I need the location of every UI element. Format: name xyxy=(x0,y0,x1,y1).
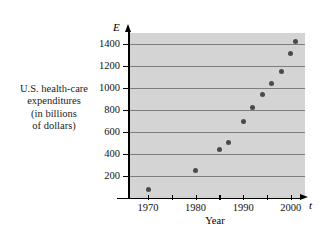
x-axis-tick-label: 2000 xyxy=(271,203,311,214)
y-axis-tick xyxy=(123,66,129,67)
plot-area xyxy=(129,33,305,198)
y-axis-line xyxy=(128,30,130,199)
x-axis-tick xyxy=(219,195,220,200)
gridline xyxy=(129,154,305,155)
data-point xyxy=(241,119,246,124)
y-axis-tick-label: 800 xyxy=(86,105,120,116)
data-point xyxy=(193,168,198,173)
y-axis-tick xyxy=(123,110,129,111)
y-axis-tick xyxy=(123,154,129,155)
gridline xyxy=(129,66,305,67)
x-axis-tick xyxy=(291,195,292,200)
x-axis-line xyxy=(117,198,301,200)
data-point xyxy=(260,92,265,97)
x-axis-tick xyxy=(196,195,197,200)
gridline xyxy=(129,44,305,45)
x-axis-arrow-icon xyxy=(300,194,308,200)
x-axis-label: Year xyxy=(155,216,275,227)
y-axis-arrow-icon xyxy=(125,24,131,32)
x-axis-tick-label: 1990 xyxy=(223,203,263,214)
data-point xyxy=(279,69,284,74)
x-axis-tick xyxy=(267,195,268,200)
x-axis-tick xyxy=(148,195,149,200)
health-care-expenditures-chart: U.S. health-care expenditures (in billio… xyxy=(0,0,333,243)
gridline xyxy=(129,132,305,133)
y-axis-tick-label: 1200 xyxy=(86,61,120,72)
x-axis-tick xyxy=(172,195,173,200)
y-axis-tick-label: 1400 xyxy=(86,39,120,50)
gridline xyxy=(129,110,305,111)
data-point xyxy=(146,187,151,192)
y-axis-symbol: E xyxy=(113,22,120,33)
y-axis-tick xyxy=(123,132,129,133)
y-axis-tick xyxy=(123,176,129,177)
data-point xyxy=(288,51,293,56)
y-axis-tick-label: 200 xyxy=(86,171,120,182)
data-point xyxy=(217,147,222,152)
data-point xyxy=(269,81,274,86)
gridline xyxy=(129,88,305,89)
y-axis-tick xyxy=(123,44,129,45)
x-axis-tick-label: 1980 xyxy=(176,203,216,214)
gridline xyxy=(129,176,305,177)
x-axis-symbol: t xyxy=(309,200,312,211)
x-axis-tick-label: 1970 xyxy=(128,203,168,214)
y-axis-tick-label: 1000 xyxy=(86,83,120,94)
data-point xyxy=(293,39,298,44)
y-axis-tick-label: 600 xyxy=(86,127,120,138)
x-axis-tick xyxy=(243,195,244,200)
y-axis-tick-label: 400 xyxy=(86,149,120,160)
y-axis-tick xyxy=(123,88,129,89)
data-point xyxy=(226,140,231,145)
